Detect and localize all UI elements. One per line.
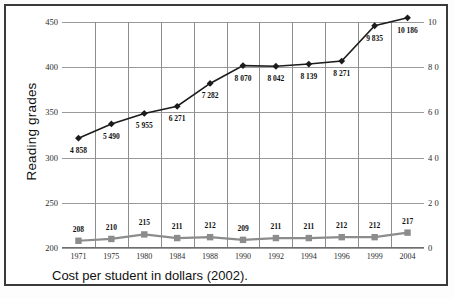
data-point-label: 9 835 — [366, 33, 383, 42]
figure-page: Reading grades 4 8585 4905 9556 2717 282… — [0, 0, 454, 299]
y-axis-tick-right: 6 0 — [428, 107, 454, 117]
data-point-label: 8 139 — [300, 72, 317, 81]
data-point-marker — [108, 121, 115, 128]
data-point-marker — [141, 231, 147, 237]
data-point-label: 8 271 — [333, 69, 350, 78]
data-point-label: 211 — [303, 222, 314, 231]
data-point-marker — [207, 234, 213, 240]
data-point-marker — [404, 14, 411, 21]
data-point-label: 217 — [402, 216, 413, 225]
data-point-marker — [141, 110, 148, 117]
data-point-marker — [174, 235, 180, 241]
y-axis-tick-right: 2 0 — [428, 198, 454, 208]
data-point-marker — [371, 234, 377, 240]
data-point-label: 5 490 — [103, 131, 120, 140]
x-axis-tick-label: 2004 — [388, 252, 428, 261]
data-point-marker — [108, 236, 114, 242]
data-point-marker — [404, 229, 410, 235]
data-point-label: 212 — [336, 221, 347, 230]
data-point-marker — [240, 237, 246, 243]
y-axis-tick-left: 200 — [18, 243, 58, 253]
data-point-marker — [240, 62, 247, 69]
data-point-marker — [339, 234, 345, 240]
y-axis-tick-left: 350 — [18, 107, 58, 117]
data-point-marker — [273, 235, 279, 241]
figure-frame: Reading grades 4 8585 4905 9556 2717 282… — [4, 4, 448, 286]
y-axis-tick-left: 300 — [18, 153, 58, 163]
data-point-label: 212 — [204, 221, 215, 230]
data-point-marker — [273, 63, 280, 70]
data-point-marker — [306, 235, 312, 241]
data-point-label: 5 955 — [136, 121, 153, 130]
data-point-marker — [305, 61, 312, 68]
data-point-label: 4 858 — [70, 146, 87, 155]
data-point-label: 210 — [106, 222, 117, 231]
data-point-label: 8 042 — [267, 74, 284, 83]
data-point-marker — [75, 238, 81, 244]
y-axis-title: Reading grades — [24, 67, 39, 197]
figure-caption: Cost per student in dollars (2002). — [52, 268, 248, 283]
data-point-label: 211 — [270, 222, 281, 231]
y-axis-tick-left: 250 — [18, 198, 58, 208]
chart-plot-area: 4 8585 4905 9556 2717 2828 0708 0428 139… — [62, 22, 424, 248]
y-axis-tick-left: 450 — [18, 17, 58, 27]
data-point-label: 212 — [369, 221, 380, 230]
data-point-label: 211 — [172, 222, 183, 231]
data-point-label: 208 — [73, 224, 84, 233]
data-point-label: 10 186 — [397, 25, 418, 34]
data-point-label: 8 070 — [235, 73, 252, 82]
data-point-label: 215 — [139, 218, 150, 227]
y-axis-tick-right: 0 — [428, 243, 454, 253]
data-point-label: 6 271 — [169, 114, 186, 123]
y-axis-tick-right: 4 0 — [428, 153, 454, 163]
gridline-horizontal — [62, 248, 424, 249]
data-point-marker — [75, 135, 82, 142]
data-point-label: 7 282 — [202, 91, 219, 100]
y-axis-tick-right: 10 — [428, 17, 454, 27]
y-axis-tick-right: 8 0 — [428, 62, 454, 72]
data-point-label: 209 — [237, 223, 248, 232]
y-axis-tick-left: 400 — [18, 62, 58, 72]
